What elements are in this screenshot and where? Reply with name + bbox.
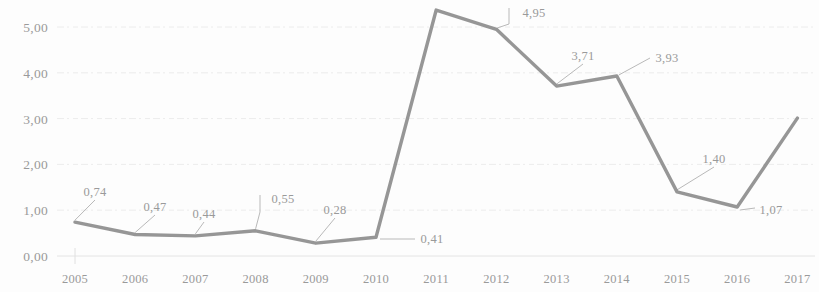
data-point-label: 0,55 <box>271 192 294 206</box>
x-axis-tick-label: 2007 <box>182 272 208 286</box>
data-point-label: 1,40 <box>702 152 725 166</box>
x-axis-tick-label: 2014 <box>604 272 631 286</box>
label-leader-line <box>256 195 260 229</box>
data-point-label: 3,71 <box>571 49 594 63</box>
label-leader-line <box>496 8 509 28</box>
x-axis-tick-label: 2010 <box>363 272 389 286</box>
line-chart-container: 0,001,002,003,004,005,00 200520062007200… <box>0 0 819 292</box>
y-axis-tick-label: 1,00 <box>23 203 48 218</box>
x-axis-tick-label: 2009 <box>303 272 329 286</box>
data-point-label: 3,93 <box>655 51 678 65</box>
chart-plot-area: 0,001,002,003,004,005,00 200520062007200… <box>0 0 819 292</box>
label-leader-line <box>135 215 155 232</box>
y-axis-tick-label: 3,00 <box>23 112 48 127</box>
data-series-line <box>75 10 797 243</box>
x-axis-tick-label: 2017 <box>784 272 810 286</box>
data-label-leader-lines <box>75 8 755 241</box>
data-point-label: 0,74 <box>83 185 107 199</box>
data-point-label: 0,28 <box>323 203 346 217</box>
label-leader-line <box>740 208 755 210</box>
gridlines <box>57 27 815 256</box>
x-axis-tick-label: 2006 <box>122 272 148 286</box>
x-axis-tick-label: 2016 <box>724 272 750 286</box>
x-axis-tick-label: 2012 <box>483 272 509 286</box>
data-point-label: 0,47 <box>143 200 166 214</box>
data-point-label: 0,44 <box>192 207 216 221</box>
x-axis-tick-labels: 2005200620072008200920102011201220132014… <box>62 272 811 286</box>
y-axis-tick-label: 4,00 <box>23 66 48 81</box>
y-axis-tick-label: 2,00 <box>23 157 48 172</box>
data-point-label: 1,07 <box>759 203 782 217</box>
x-axis-tick-label: 2008 <box>242 272 268 286</box>
x-axis-tick-label: 2015 <box>664 272 690 286</box>
data-point-label: 4,95 <box>522 6 545 20</box>
label-leader-line <box>316 218 335 241</box>
label-leader-line <box>677 167 714 190</box>
x-axis-tick-label: 2011 <box>423 272 449 286</box>
y-axis-tick-labels: 0,001,002,003,004,005,00 <box>23 20 48 264</box>
label-leader-line <box>195 222 204 234</box>
y-axis-tick-label: 0,00 <box>23 249 48 264</box>
y-axis-tick-label: 5,00 <box>23 20 48 35</box>
x-axis-tick-label: 2013 <box>543 272 569 286</box>
x-axis-tick-label: 2005 <box>62 272 88 286</box>
data-point-label: 0,41 <box>420 232 443 246</box>
